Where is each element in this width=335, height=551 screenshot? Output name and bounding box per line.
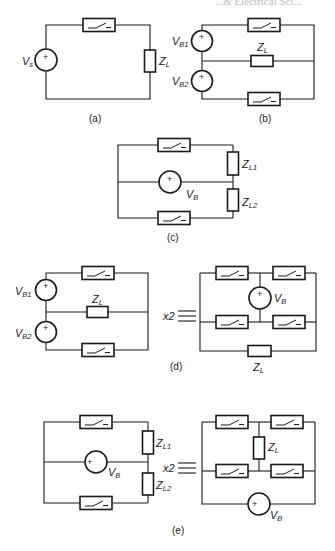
- plus-sign: +: [199, 32, 204, 42]
- caption-b: (b): [259, 113, 271, 124]
- label-zl: ZL: [158, 55, 170, 69]
- switch-icon: [82, 344, 114, 357]
- caption-c: (c): [167, 232, 179, 243]
- label-vb: VB: [186, 188, 198, 202]
- switch-icon: [82, 267, 114, 280]
- circuit-b: + + VB1 VB2 ZL (b): [172, 19, 314, 125]
- caption-d: (d): [170, 361, 182, 372]
- label-vb2: VB2: [172, 75, 189, 89]
- switch-icon: [273, 267, 305, 280]
- switch-icon: [271, 465, 303, 478]
- label-vb1: VB1: [15, 285, 32, 299]
- switch-icon: [216, 416, 248, 429]
- load-impedance-icon: [143, 473, 154, 495]
- load-impedance-icon: [251, 56, 273, 67]
- switch-icon: [216, 465, 248, 478]
- circuit-e-left: + VB ZL1 ZL2: [44, 416, 172, 510]
- load-impedance-icon: [254, 437, 265, 459]
- switch-icon: [80, 416, 112, 429]
- plus-sign: +: [43, 52, 48, 62]
- load-impedance-icon: [87, 307, 108, 318]
- multiplier-x2: x2: [162, 310, 175, 322]
- circuit-e-right: + ZL VB (e): [172, 416, 315, 537]
- plus-sign: +: [252, 499, 257, 509]
- label-zl: ZL: [256, 41, 268, 55]
- label-vb: VB: [108, 466, 120, 480]
- load-impedance-icon: [145, 50, 156, 72]
- switch-icon: [83, 19, 115, 32]
- label-zl: ZL: [91, 293, 103, 307]
- label-vb: VB: [274, 292, 286, 306]
- switch-icon: [216, 316, 248, 329]
- plus-sign: +: [167, 174, 172, 184]
- equivalence-e: x2: [162, 462, 196, 474]
- equivalence-d: x2: [162, 310, 196, 322]
- load-impedance-icon: [248, 346, 271, 357]
- switch-icon: [216, 267, 248, 280]
- circuit-a: + Vs ZL (a): [22, 19, 170, 125]
- label-zl: ZL: [252, 361, 264, 375]
- page-header-partial: ...& Electrical Sci...: [215, 0, 302, 7]
- load-impedance-icon: [228, 152, 239, 175]
- plus-sign: +: [43, 323, 48, 333]
- switch-icon: [248, 93, 280, 106]
- label-zl2: ZL2: [155, 479, 172, 493]
- switch-icon: [248, 19, 280, 32]
- label-vb1: VB1: [172, 35, 189, 49]
- circuit-c: + VB ZL1 ZL2 (c): [118, 139, 258, 244]
- switch-icon: [158, 139, 190, 152]
- switch-icon: [273, 316, 305, 329]
- plus-sign: +: [43, 281, 48, 291]
- label-zl: ZL: [267, 441, 279, 455]
- label-zl2: ZL2: [241, 196, 258, 210]
- caption-a: (a): [89, 113, 101, 124]
- plus-sign: +: [87, 457, 92, 467]
- label-zl1: ZL1: [241, 158, 257, 172]
- load-impedance-icon: [228, 189, 239, 211]
- switch-icon: [80, 497, 112, 510]
- circuit-figure: ...& Electrical Sci... + Vs ZL (a) + + V…: [0, 0, 335, 551]
- label-vs: Vs: [22, 55, 33, 69]
- caption-e: (e): [172, 525, 184, 536]
- switch-icon: [158, 212, 190, 225]
- load-impedance-icon: [143, 431, 154, 454]
- multiplier-x2: x2: [162, 462, 175, 474]
- plus-sign: +: [199, 72, 204, 82]
- switch-icon: [271, 416, 303, 429]
- label-zl1: ZL1: [155, 437, 171, 451]
- plus-sign: +: [257, 289, 262, 299]
- circuit-d-left: + + VB1 VB2 ZL: [15, 267, 148, 357]
- label-vb: VB: [270, 509, 282, 523]
- label-vb2: VB2: [15, 327, 32, 341]
